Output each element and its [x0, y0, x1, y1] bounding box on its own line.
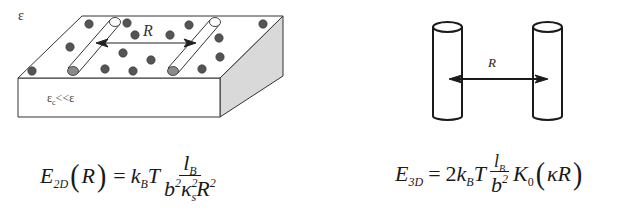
formula-2d: E2D (R) = kBT lB b2κ2sR2	[40, 152, 220, 200]
substrate-dielectric-label: εc<<ε	[47, 91, 74, 107]
fraction-numerator: lB	[490, 152, 509, 172]
formula-3d-fraction: lB b2	[490, 152, 509, 196]
formula-3d-lhs: E3D	[395, 161, 423, 187]
equals-sign: =	[428, 161, 440, 187]
paren-close: )	[573, 156, 582, 191]
paren-open: (	[536, 156, 545, 191]
cylinder-left	[433, 22, 462, 120]
substrate-relation: <<ε	[56, 91, 75, 105]
bessel-argument: κR	[547, 161, 571, 187]
paren-open: (	[70, 158, 79, 193]
fraction-numerator: lB	[179, 152, 200, 176]
formula-2d-arg: R	[81, 163, 94, 189]
formula-2d-fraction: lB b2κ2sR2	[164, 152, 216, 200]
paren-close: )	[97, 158, 106, 193]
equals-sign: =	[113, 163, 125, 189]
bessel-function: K0	[513, 161, 534, 187]
formula-3d: E3D = 2kBT lB b2 K0 (κR)	[395, 152, 584, 196]
distance-arrow-3d	[449, 75, 548, 83]
distance-label-2d: R	[143, 22, 153, 40]
cylinder-right	[533, 22, 562, 120]
fraction-denominator: b2	[491, 172, 508, 196]
distance-label-3d: R	[488, 55, 496, 71]
formula-3d-prefactor: 2kBT	[446, 161, 486, 187]
fraction-denominator: b2κ2sR2	[164, 176, 216, 200]
figure: ε εc<<ε R E2D (R) = kBT lB b2κ2sR2	[0, 0, 624, 217]
formula-2d-prefactor: kBT	[131, 163, 160, 189]
slab-2d-diagram	[0, 0, 320, 140]
outer-dielectric-label: ε	[18, 8, 24, 24]
formula-2d-lhs: E2D	[40, 163, 68, 189]
